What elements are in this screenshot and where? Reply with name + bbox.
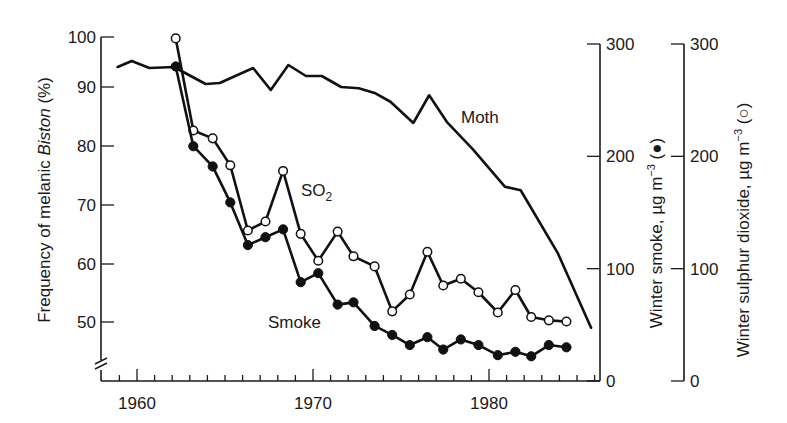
so2-label-sub: 2 xyxy=(326,190,333,204)
right-axis-so2: 0100200300 xyxy=(671,35,718,391)
filled-circle-marker-icon xyxy=(171,62,180,71)
open-circle-marker-icon xyxy=(261,217,270,226)
open-circle-marker-icon xyxy=(423,248,432,257)
smoke-title-prefix: Winter smoke, µg m xyxy=(647,177,666,329)
right-tick-label: 200 xyxy=(690,147,718,166)
so2-title-sup: −3 xyxy=(732,129,744,142)
open-circle-marker-icon xyxy=(511,286,520,295)
filled-circle-marker-icon xyxy=(388,330,397,339)
left-title-prefix: Frequency of melanic xyxy=(35,156,54,323)
filled-circle-marker-icon xyxy=(493,351,502,360)
open-circle-marker-icon xyxy=(457,274,466,283)
filled-circle-marker-icon xyxy=(189,142,198,151)
open-circle-marker-icon xyxy=(226,161,235,170)
filled-circle-marker-icon xyxy=(423,333,432,342)
open-circle-marker-icon xyxy=(439,281,448,290)
filled-circle-marker-icon xyxy=(405,340,414,349)
x-tick-label: 1970 xyxy=(294,394,332,413)
left-title-italic: Biston xyxy=(35,108,54,155)
right-tick-label: 100 xyxy=(690,260,718,279)
open-circle-marker-icon xyxy=(333,227,342,236)
open-circle-marker-icon xyxy=(296,230,305,239)
so2-axis-title: Winter sulphur dioxide, µg m−3 (○) xyxy=(732,103,753,358)
left-axis-title: Frequency of melanic Biston (%) xyxy=(35,77,54,323)
right-axis-smoke: 0100200300 xyxy=(587,35,634,391)
open-circle-marker-icon xyxy=(314,257,323,266)
open-circle-marker-icon xyxy=(406,290,415,299)
filled-circle-marker-icon xyxy=(243,240,252,249)
open-circle-marker-icon xyxy=(562,317,571,326)
filled-circle-marker-icon xyxy=(261,233,270,242)
open-circle-marker-icon xyxy=(244,226,253,235)
open-circle-marker-icon xyxy=(388,307,397,316)
filled-circle-marker-icon xyxy=(296,278,305,287)
open-circle-marker-icon xyxy=(545,316,554,325)
open-circle-marker-icon xyxy=(208,134,217,143)
right-tick-label: 300 xyxy=(690,35,718,54)
filled-circle-marker-icon xyxy=(474,340,483,349)
so2-line xyxy=(176,38,567,321)
moth-series-label: Moth xyxy=(461,108,499,127)
x-axis: 196019701980 xyxy=(101,369,600,413)
filled-circle-marker-icon xyxy=(562,343,571,352)
filled-circle-marker-icon xyxy=(333,300,342,309)
x-tick-label: 1980 xyxy=(470,394,508,413)
left-tick-label: 100 xyxy=(68,28,96,47)
right-tick-label: 0 xyxy=(606,372,615,391)
left-tick-label: 80 xyxy=(77,137,96,156)
left-tick-label: 60 xyxy=(77,255,96,274)
open-circle-marker-icon xyxy=(349,252,358,261)
filled-circle-marker-icon xyxy=(456,335,465,344)
right-tick-label: 200 xyxy=(606,147,634,166)
right-tick-label: 0 xyxy=(690,372,699,391)
pollution-moth-chart: 5060708090100 196019701980 0100200300 01… xyxy=(0,0,787,423)
filled-circle-marker-icon xyxy=(314,269,323,278)
left-tick-label: 50 xyxy=(77,313,96,332)
right-tick-label: 100 xyxy=(606,260,634,279)
series-smoke xyxy=(171,62,571,361)
open-circle-marker-icon xyxy=(527,313,536,322)
open-circle-marker-icon xyxy=(279,167,288,176)
filled-circle-marker-icon xyxy=(439,345,448,354)
so2-title-prefix: Winter sulphur dioxide, µg m xyxy=(734,142,753,358)
smoke-series-label: Smoke xyxy=(268,313,321,332)
filled-circle-marker-icon xyxy=(544,340,553,349)
series-layer xyxy=(118,34,591,361)
smoke-axis-title: Winter smoke, µg m−3 (●) xyxy=(645,138,666,328)
filled-circle-marker-icon xyxy=(226,198,235,207)
right-tick-label: 300 xyxy=(606,35,634,54)
filled-circle-marker-icon xyxy=(278,225,287,234)
open-circle-marker-icon xyxy=(494,308,503,317)
so2-series-label: SO2 xyxy=(301,181,333,204)
left-title-suffix: (%) xyxy=(35,77,54,108)
x-tick-label: 1960 xyxy=(118,394,156,413)
so2-label-main: SO xyxy=(301,181,326,200)
smoke-line xyxy=(176,66,567,356)
so2-title-suffix: (○) xyxy=(734,103,753,129)
left-tick-label: 70 xyxy=(77,196,96,215)
filled-circle-marker-icon xyxy=(511,347,520,356)
smoke-title-suffix: (●) xyxy=(647,138,666,164)
smoke-title-sup: −3 xyxy=(645,164,657,177)
left-axis: 5060708090100 xyxy=(68,28,114,381)
open-circle-marker-icon xyxy=(474,288,483,297)
left-tick-label: 90 xyxy=(77,78,96,97)
filled-circle-marker-icon xyxy=(370,321,379,330)
filled-circle-marker-icon xyxy=(349,298,358,307)
open-circle-marker-icon xyxy=(171,34,180,43)
open-circle-marker-icon xyxy=(370,262,379,271)
filled-circle-marker-icon xyxy=(208,162,217,171)
filled-circle-marker-icon xyxy=(527,352,536,361)
